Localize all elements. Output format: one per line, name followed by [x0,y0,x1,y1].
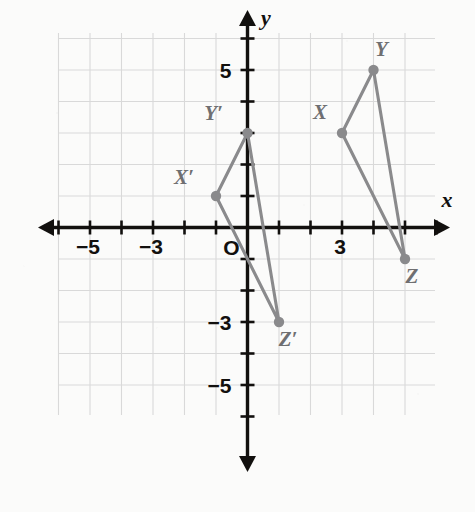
vertex-point [211,191,221,201]
vertex-label: X′ [173,165,194,189]
vertex-label: Y′ [204,101,223,125]
y-tick-label: −3 [208,311,232,334]
x-axis-label: x [441,187,453,212]
y-tick-label: 5 [220,59,232,82]
vertex-label: Y [375,37,390,61]
y-axis-arrow-up [239,10,256,26]
y-axis-arrow-down [239,456,256,472]
figure-canvas: XYZX′Y′Z′−5−335−3−5Oxy [0,0,475,512]
vertex-point [274,317,284,327]
vertex-point [400,254,410,264]
vertex-label: X [312,100,328,124]
coordinate-plane-plot: XYZX′Y′Z′−5−335−3−5Oxy [0,0,475,512]
vertex-point [242,128,252,138]
y-tick-label: −5 [208,374,232,397]
y-axis-label: y [258,5,271,30]
origin-label: O [223,236,239,259]
x-tick-label: −5 [76,235,100,258]
x-axis-arrow-left [38,219,54,236]
vertex-point [337,128,347,138]
vertex-label: Z′ [278,327,298,351]
vertex-label: Z [405,264,419,288]
x-tick-label: 3 [334,235,346,258]
x-tick-label: −3 [139,235,163,258]
vertex-point [368,65,378,75]
